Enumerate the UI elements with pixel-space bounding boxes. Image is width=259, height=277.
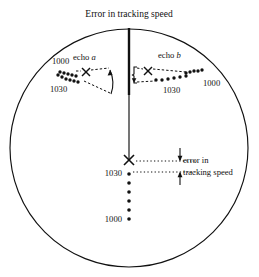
center-speed-high-label: 1000 — [105, 214, 122, 224]
echo-b-lower-dot-1 — [160, 78, 163, 81]
echo-a-lower-dot-4 — [72, 79, 75, 82]
echo-b-dash-lower — [137, 81, 155, 82]
echo-b-dash-upper-right — [153, 69, 186, 72]
echo-a-lower-dot-1 — [60, 75, 63, 78]
echo-a-lower-dot-5 — [76, 80, 79, 83]
center-track-dot-0 — [127, 172, 131, 176]
echo-b-lower-dot-3 — [172, 76, 175, 79]
echo-a-label: echo a — [73, 52, 96, 62]
center-track-dot-4 — [127, 208, 131, 212]
echo-b-lower-dot-2 — [166, 77, 169, 80]
error-arrow-up-head — [178, 172, 183, 178]
tracking-error-figure: Error in tracking speed echo a 1000 1030… — [0, 0, 259, 277]
echo-b-lower-dot-4 — [178, 75, 181, 78]
center-track-dot-2 — [127, 190, 131, 194]
echo-b-group: echo b 1000 1030 — [132, 50, 220, 95]
echo-b-x-marker — [144, 67, 152, 75]
echo-b-track-upper — [184, 68, 203, 74]
echo-a-upper-dot-2 — [66, 72, 69, 75]
echo-a-dash-lower — [84, 81, 110, 93]
center-speed-low-label: 1030 — [105, 168, 122, 178]
echo-a-speed-low-label: 1030 — [50, 84, 67, 94]
echo-b-upper-dot-2 — [192, 69, 195, 72]
echo-b-arrow-head — [132, 78, 137, 83]
echo-a-upper-dot-1 — [62, 71, 65, 74]
echo-b-upper-dot-3 — [196, 69, 199, 72]
echo-b-lower-dot-5 — [184, 74, 187, 77]
echo-b-upper-dot-4 — [200, 68, 203, 71]
echo-b-label: echo b — [158, 50, 181, 60]
echo-a-lower-dot-0 — [56, 73, 59, 76]
echo-a-upper-dot-4 — [74, 74, 77, 77]
echo-a-arrow-head — [108, 70, 113, 75]
error-annotation-group: error in tracking speed — [133, 148, 234, 185]
echo-a-lower-dot-2 — [64, 77, 67, 80]
echo-b-speed-low-label: 1030 — [163, 85, 180, 95]
figure-title: Error in tracking speed — [85, 9, 173, 19]
error-arrow-down-head — [178, 156, 183, 162]
echo-a-dash-upper — [91, 68, 109, 70]
center-track-dot-3 — [127, 199, 131, 203]
center-track-dots — [127, 172, 131, 221]
echo-b-dash-upper-left — [137, 68, 143, 69]
echo-b-track-lower — [154, 74, 187, 81]
center-track-group: 1030 1000 — [105, 155, 134, 224]
echo-a-lower-dot-3 — [68, 78, 71, 81]
echo-a-x-marker — [82, 68, 90, 76]
error-annotation-line-1: error in — [183, 155, 209, 165]
echo-a-speed-high-label: 1000 — [52, 56, 69, 66]
error-annotation-line-2: tracking speed — [183, 167, 234, 177]
echo-a-upper-dot-3 — [70, 73, 73, 76]
echo-b-speed-high-label: 1000 — [203, 78, 220, 88]
center-track-dot-1 — [127, 181, 131, 185]
echo-a-group: echo a 1000 1030 — [50, 52, 113, 94]
echo-b-upper-dot-1 — [188, 70, 191, 73]
echo-a-upper-dot-0 — [58, 70, 61, 73]
center-track-dot-5 — [127, 217, 131, 221]
